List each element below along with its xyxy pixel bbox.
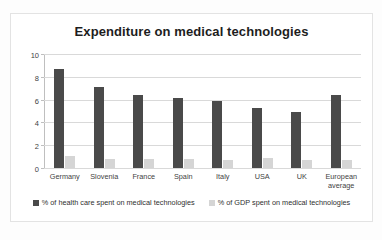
y-axis-tick-label: 8 [35,73,39,82]
chart-frame: Expenditure on medical technologies 0246… [10,13,373,222]
y-axis-tick-label: 10 [31,51,39,60]
x-axis-category-labels: GermanySloveniaFranceSpainItalyUSAUKEuro… [45,172,361,190]
bar-group [243,55,283,168]
y-axis-tick-mark [41,168,44,169]
bar [331,95,341,168]
bar [184,159,194,168]
bar [133,95,143,168]
x-axis-category-label: Germany [45,172,85,190]
bar [54,69,64,168]
y-axis-tick-label: 0 [35,165,39,174]
x-axis-category-label: Slovenia [85,172,125,190]
gridline [44,168,361,169]
bar [302,160,312,168]
bar [223,160,233,168]
bar [342,160,352,168]
bar [212,101,222,168]
bar [252,108,262,168]
x-axis-category-label: Spain [164,172,204,190]
y-axis-tick-mark [41,77,44,78]
y-axis-tick-mark [41,100,44,101]
y-axis-tick-mark [41,54,44,55]
bar [291,112,301,169]
bar-group [124,55,164,168]
x-axis-category-label: USA [243,172,283,190]
y-axis-tick-label: 2 [35,142,39,151]
legend-label: % of GDP spent on medical technologies [218,198,351,207]
x-axis-category-label: European average [322,172,362,190]
bar-group [203,55,243,168]
bar-group [164,55,204,168]
bar [65,156,75,168]
legend-item[interactable]: % of health care spent on medical techno… [33,198,195,207]
legend-swatch-icon [209,200,215,206]
y-axis-tick-label: 6 [35,96,39,105]
bar [94,87,104,168]
bar-groups [45,55,361,168]
bar [105,159,115,168]
legend-swatch-icon [33,200,39,206]
bar-group [85,55,125,168]
bar-group [322,55,362,168]
bar [173,98,183,168]
bar-group [45,55,85,168]
plot-area: 0246810 [44,55,361,169]
bar-group [282,55,322,168]
x-axis-category-label: Italy [203,172,243,190]
bar [263,158,273,168]
bar [144,159,154,168]
y-axis-tick-label: 4 [35,119,39,128]
chart-screenshot: Expenditure on medical technologies 0246… [0,0,382,240]
x-axis-category-label: UK [282,172,322,190]
chart-legend: % of health care spent on medical techno… [11,198,372,207]
y-axis-tick-mark [41,145,44,146]
x-axis-category-label: France [124,172,164,190]
y-axis-tick-mark [41,122,44,123]
legend-item[interactable]: % of GDP spent on medical technologies [209,198,351,207]
chart-title: Expenditure on medical technologies [11,24,372,39]
legend-label: % of health care spent on medical techno… [42,198,195,207]
